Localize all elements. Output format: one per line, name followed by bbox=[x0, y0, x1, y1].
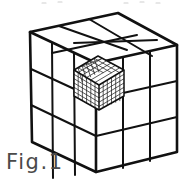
figure-container: Fig.1 bbox=[0, 0, 189, 191]
scan-artifact bbox=[42, 2, 160, 3]
figure-caption: Fig.1 bbox=[6, 152, 64, 173]
